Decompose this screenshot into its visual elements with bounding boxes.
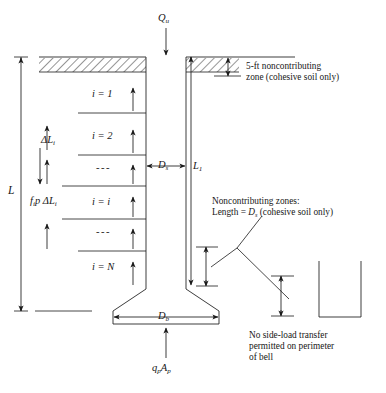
- segment-label-ellipsis-lower: ---: [96, 226, 111, 238]
- drilled-shaft-outline: [146, 57, 186, 289]
- five-ft-note-line1: 5-ft noncontributing: [246, 61, 339, 72]
- bell-detail-walls: [319, 261, 361, 317]
- segment-thickness-label: ΔLi: [41, 134, 55, 147]
- segment-label-N: i = N: [92, 261, 114, 273]
- side-shear-label: fip ΔLi: [30, 195, 57, 208]
- shaft-diameter-label: Ds: [158, 159, 168, 172]
- noncontributing-zones-line1: Noncontributing zones:: [212, 196, 333, 207]
- segment-label-2: i = 2: [92, 130, 113, 142]
- ground-hatch-band: [39, 58, 239, 72]
- side-shear-arrows: [47, 88, 133, 285]
- bell-note-line1: No side-load transfer: [249, 330, 334, 341]
- noncontributing-zones-note: Noncontributing zones: Length = Ds (cohe…: [212, 196, 333, 218]
- base-load-label: qpAp: [152, 362, 171, 375]
- bell-noncontributing-zone-dimension: [196, 247, 218, 286]
- bell-diameter-label: Db: [158, 310, 169, 323]
- applied-load-label: Qu: [158, 12, 169, 25]
- total-length-dimension: [14, 57, 92, 311]
- segment-label-1: i = 1: [92, 88, 113, 100]
- bell-note-line3: of bell: [249, 352, 334, 363]
- figure-canvas: Qu 5-ft noncontributing zone (cohesive s…: [0, 0, 386, 393]
- contributing-length-label: L1: [193, 160, 202, 173]
- noncontributing-zones-line2: Length = Ds (cohesive soil only): [212, 207, 333, 218]
- five-ft-note-line2: zone (cohesive soil only): [246, 72, 339, 83]
- segment-label-ellipsis-upper: ---: [96, 162, 111, 174]
- five-ft-noncontributing-zone-note: 5-ft noncontributing zone (cohesive soil…: [246, 61, 339, 83]
- bell-note-line2: permitted on perimeter: [249, 341, 334, 352]
- total-length-label: L: [8, 184, 14, 198]
- no-side-load-transfer-note: No side-load transfer permitted on perim…: [249, 330, 334, 363]
- bell-detail-noncontributing-zone: [271, 276, 294, 316]
- segment-label-i: i = i: [92, 196, 110, 208]
- noncontributing-zone-leader-lines: [211, 216, 289, 299]
